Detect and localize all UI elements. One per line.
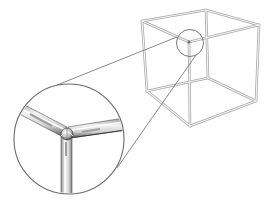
cube-joint-diagram [0, 0, 270, 200]
detail-rod-vertical [61, 136, 72, 198]
diagram-canvas [0, 0, 270, 200]
wireframe-cube [142, 10, 259, 126]
corner-joint-marker [187, 40, 190, 43]
detail-rounded-joint [61, 128, 73, 140]
magnified-detail [10, 84, 126, 198]
